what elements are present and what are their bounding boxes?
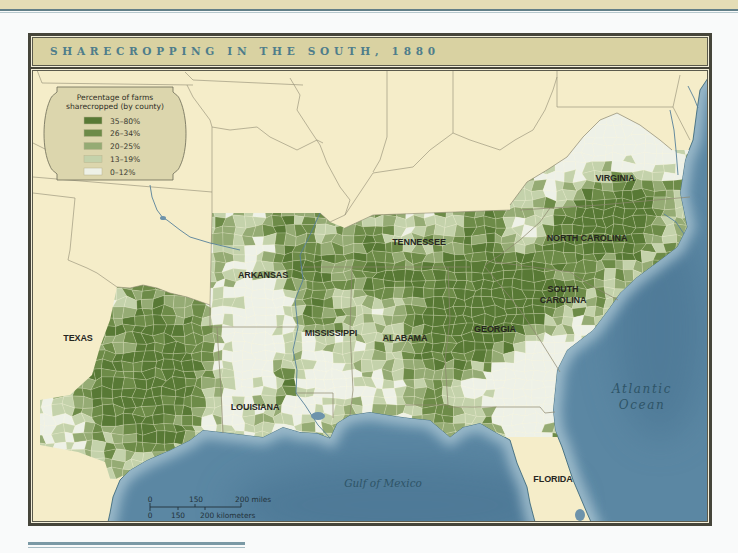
county-cell (223, 233, 235, 246)
county-cell (463, 236, 471, 245)
state-label-mississippi: MISSISSIPPI (305, 328, 357, 338)
sharecropping-map: Percentage of farms sharecropped (by cou… (32, 70, 708, 522)
legend-swatch-26-34 (84, 130, 102, 137)
bottom-rule (28, 542, 245, 545)
county-cell (301, 422, 315, 433)
scale-km-150: 150 (171, 511, 185, 520)
header-rule (0, 9, 738, 11)
county-cell (602, 183, 614, 192)
county-cell (174, 397, 184, 406)
county-cell (211, 314, 224, 325)
county-cell (532, 305, 545, 314)
county-cell (652, 197, 666, 210)
county-cell (645, 152, 657, 165)
legend-label-0-12: 0–12% (110, 168, 136, 177)
county-cell (454, 260, 466, 273)
county-cell (393, 269, 406, 281)
county-cell (133, 361, 142, 372)
county-cell (434, 252, 444, 263)
county-cell (233, 246, 245, 255)
legend: Percentage of farms sharecropped (by cou… (44, 87, 186, 180)
county-cell (333, 297, 342, 309)
county-cell (161, 396, 176, 405)
state-label-south-carolina-line1: SOUTH (547, 284, 578, 294)
county-cell (141, 299, 153, 309)
county-cell (662, 172, 676, 181)
county-cell (193, 415, 202, 426)
lake-okeechobee (575, 509, 585, 521)
county-cell (483, 363, 492, 373)
scale-miles-200: 200 miles (235, 495, 271, 504)
county-cell (123, 424, 136, 435)
county-cell (453, 242, 465, 255)
scale-km-0: 0 (148, 511, 153, 520)
lake-texoma (160, 216, 166, 220)
county-cell (385, 242, 392, 254)
bottom-rule-thin (28, 547, 245, 548)
legend-swatch-13-19 (84, 156, 102, 163)
county-cell (442, 368, 454, 380)
county-cell (251, 289, 266, 299)
county-cell (615, 253, 623, 261)
county-cell (153, 414, 164, 425)
state-label-louisiana: LOUISIANA (231, 402, 280, 412)
county-cell (486, 233, 495, 243)
legend-title-line2: sharecropped (by county) (66, 102, 164, 111)
legend-label-26-34: 26–34% (110, 129, 140, 138)
county-cell (623, 270, 634, 283)
state-label-south-carolina-line2: CAROLINA (540, 295, 587, 305)
county-cell (173, 296, 185, 309)
county-cell (135, 344, 147, 352)
county-cell (655, 154, 663, 165)
map-title-bar: SHARECROPPING IN THE SOUTH, 1880 (31, 36, 709, 67)
county-cell (403, 368, 415, 380)
county-cell (245, 245, 257, 255)
map-frame: SHARECROPPING IN THE SOUTH, 1880 (28, 33, 712, 526)
legend-swatch-0-12 (84, 168, 102, 175)
header-rule-thin (0, 12, 738, 13)
county-cell (526, 336, 537, 342)
county-cell (315, 224, 326, 235)
county-cell (382, 380, 394, 389)
state-label-north-carolina: NORTH CAROLINA (547, 233, 628, 243)
state-label-arkansas: ARKANSAS (238, 270, 288, 280)
county-cell (135, 316, 146, 327)
state-label-alabama: ALABAMA (383, 333, 428, 343)
county-cell (162, 353, 174, 359)
lake-pontchartrain (311, 412, 325, 420)
county-cell (202, 342, 216, 353)
county-cell (301, 217, 316, 225)
scale-km-200: 200 kilometers (200, 511, 256, 520)
county-cell (475, 216, 485, 227)
state-label-georgia: GEORGIA (474, 324, 516, 334)
county-cell (266, 308, 276, 316)
county-cell (534, 314, 545, 326)
county-cell (152, 386, 162, 397)
scale-miles-0: 0 (148, 495, 153, 504)
gulf-of-mexico-label: Gulf of Mexico (344, 477, 422, 489)
state-label-texas: TEXAS (63, 333, 93, 343)
county-cell (372, 309, 384, 315)
county-cell (394, 281, 404, 287)
county-cell (73, 396, 85, 409)
map-area: Percentage of farms sharecropped (by cou… (31, 69, 709, 523)
county-cell (202, 351, 215, 362)
county-cell (285, 341, 295, 354)
county-cell (565, 335, 575, 343)
atlantic-ocean-label-line1: Atlantic (611, 382, 672, 396)
county-cell (122, 434, 137, 444)
scale-miles-150: 150 (189, 495, 203, 504)
county-cell (101, 415, 115, 427)
legend-swatch-20-25 (84, 143, 102, 150)
legend-label-13-19: 13–19% (110, 155, 140, 164)
atlantic-ocean-label-line2: Ocean (619, 398, 666, 412)
county-cell (481, 288, 492, 297)
county-cell (157, 431, 166, 444)
county-cell (583, 242, 595, 255)
county-cell (543, 380, 557, 387)
county-cell (473, 378, 487, 390)
county-cell (223, 306, 233, 314)
map-title-bar-inner: SHARECROPPING IN THE SOUTH, 1880 (32, 37, 708, 66)
county-cell (253, 307, 266, 316)
county-cell (382, 388, 396, 397)
